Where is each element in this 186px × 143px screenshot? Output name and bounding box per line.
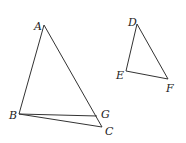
triangle-edges	[19, 24, 168, 127]
label-E: E	[115, 69, 124, 82]
segment-EF	[126, 71, 168, 79]
vertex-labels: A B C G D E F	[8, 16, 174, 138]
label-A: A	[33, 20, 42, 33]
segment-DF	[137, 24, 168, 79]
geometry-diagram: A B C G D E F	[0, 0, 186, 143]
label-B: B	[8, 109, 17, 122]
segment-AB	[19, 25, 44, 114]
label-G: G	[101, 108, 110, 121]
label-C: C	[105, 125, 114, 138]
label-D: D	[127, 16, 137, 29]
segment-DE	[126, 24, 137, 71]
segment-AC	[44, 25, 102, 127]
label-F: F	[165, 82, 174, 95]
